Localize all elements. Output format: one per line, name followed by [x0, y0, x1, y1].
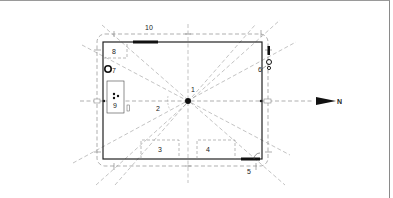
room-walls	[103, 42, 262, 159]
north-arrow-icon	[316, 97, 336, 105]
angle-arc	[168, 96, 170, 110]
label-3: 3	[158, 146, 162, 153]
center-point-1	[185, 98, 191, 104]
wall-point-left	[103, 100, 106, 103]
box-4	[197, 140, 235, 159]
opening-5-bar	[241, 158, 260, 161]
fixture-7-circle	[105, 66, 111, 72]
label-10: 10	[145, 24, 153, 31]
axis-crossing-marker-right	[264, 99, 271, 103]
wall-point-right	[260, 100, 263, 103]
label-2: 2	[156, 105, 160, 112]
axis-crossing-marker-left	[94, 99, 100, 103]
label-8: 8	[112, 48, 116, 55]
label-5: 5	[247, 168, 251, 175]
fixture-6-circle-large	[267, 60, 272, 65]
label-9: 9	[113, 102, 117, 109]
fixture-6-circle-small	[267, 66, 270, 69]
label-6: 6	[258, 66, 262, 73]
small-fixture	[127, 105, 130, 111]
opening-10-bar	[133, 41, 158, 44]
label-7: 7	[112, 67, 116, 74]
label-1: 1	[191, 86, 195, 93]
floor-plan-diagram: 10 8 7 9 2 1 3 4 5 6 N	[0, 0, 393, 198]
north-label: N	[337, 98, 342, 105]
fixture-6-bar	[268, 46, 271, 55]
label-4: 4	[206, 146, 210, 153]
